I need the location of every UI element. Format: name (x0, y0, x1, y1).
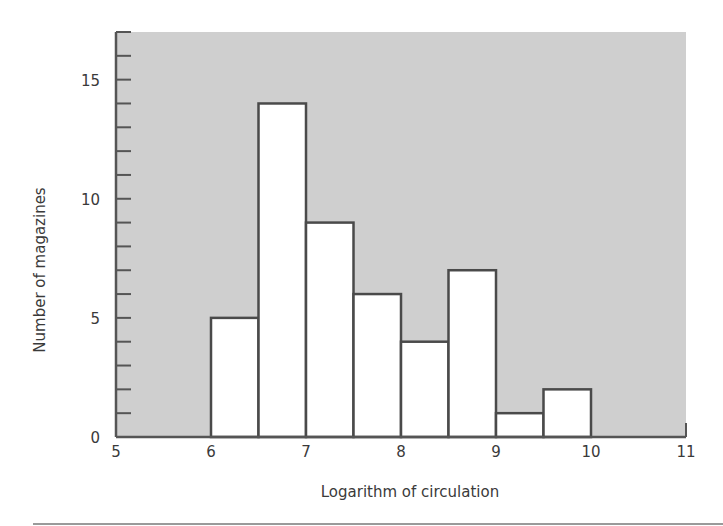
histogram-bar (544, 389, 592, 437)
histogram-bar (354, 294, 402, 437)
x-tick-label: 8 (396, 443, 406, 461)
y-tick-label: 10 (81, 191, 100, 209)
histogram-bar (211, 318, 259, 437)
x-tick-label: 11 (676, 443, 695, 461)
histogram-chart: 051015 567891011 Logarithm of circulatio… (0, 0, 723, 526)
histogram-bar (401, 342, 449, 437)
x-tick-label: 9 (491, 443, 501, 461)
histogram-bar (496, 413, 544, 437)
histogram-bar (449, 270, 497, 437)
y-tick-label: 5 (90, 310, 100, 328)
x-tick-label: 10 (581, 443, 600, 461)
x-tick-label: 7 (301, 443, 311, 461)
y-axis-title: Number of magazines (31, 187, 49, 353)
histogram-bar (306, 223, 354, 437)
y-tick-label: 15 (81, 72, 100, 90)
bottom-divider (33, 523, 723, 525)
x-axis-title: Logarithm of circulation (321, 483, 499, 501)
x-tick-label: 5 (111, 443, 121, 461)
histogram-bar (259, 103, 307, 437)
x-tick-label: 6 (206, 443, 216, 461)
y-tick-label: 0 (90, 429, 100, 447)
